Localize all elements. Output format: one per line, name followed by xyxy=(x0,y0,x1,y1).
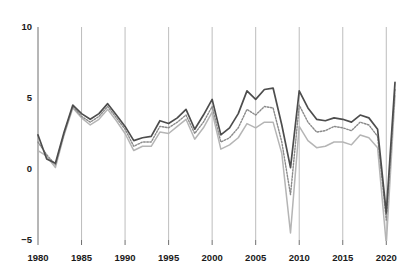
data-series-group xyxy=(38,82,395,244)
x-tick-label: 2015 xyxy=(332,252,354,263)
y-tick-labels: −50510 xyxy=(21,21,33,245)
series-line-series-middle-dotted xyxy=(38,89,395,220)
x-tick-label: 1985 xyxy=(71,252,93,263)
y-tick-label: 0 xyxy=(27,163,32,174)
x-tick-labels: 198019851990199520002005201020152020 xyxy=(27,252,396,263)
x-tick-label: 2020 xyxy=(376,252,397,263)
series-line-series-upper-dark xyxy=(38,82,395,213)
x-tick-label: 2010 xyxy=(289,252,310,263)
y-tick-label: 5 xyxy=(27,92,33,103)
y-tick-label: 10 xyxy=(21,21,32,32)
y-tick-label: −5 xyxy=(21,234,33,245)
x-tick-label: 2005 xyxy=(245,252,267,263)
chart-canvas: −50510 198019851990199520002005201020152… xyxy=(0,0,418,278)
x-tick-marks xyxy=(38,240,386,245)
x-tick-label: 1990 xyxy=(114,252,135,263)
x-tick-label: 1995 xyxy=(158,252,180,263)
line-chart: −50510 198019851990199520002005201020152… xyxy=(0,0,418,278)
x-tick-label: 2000 xyxy=(202,252,223,263)
x-tick-label: 1980 xyxy=(27,252,48,263)
